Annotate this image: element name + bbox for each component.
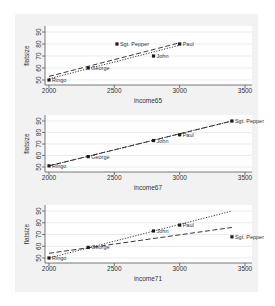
data-point-label: Sgt. Pepper <box>235 234 264 240</box>
x-tick-label: 3500 <box>238 265 253 272</box>
x-axis-label: income67 <box>134 184 163 191</box>
data-point-marker <box>87 66 90 69</box>
y-tick-label: 80 <box>35 219 42 227</box>
data-point-label: Ringo <box>52 163 66 169</box>
data-point-marker <box>87 155 90 158</box>
x-tick-label: 3000 <box>172 174 187 181</box>
data-point-label: Sgt. Pepper <box>235 118 264 124</box>
plot-area <box>45 26 252 85</box>
y-tick-label: 90 <box>35 28 42 36</box>
data-point-marker <box>152 54 155 57</box>
data-point-label: John <box>157 53 169 59</box>
data-point-marker <box>47 78 50 81</box>
data-point-label: John <box>157 138 169 144</box>
data-point-marker <box>152 139 155 142</box>
y-tick-label: 60 <box>35 152 42 160</box>
x-tick-label: 2500 <box>107 265 122 272</box>
x-tick-label: 3000 <box>172 265 187 272</box>
data-point-marker <box>87 246 90 249</box>
data-point-marker <box>115 42 118 45</box>
data-point-marker <box>178 133 181 136</box>
data-point-marker <box>178 224 181 227</box>
y-tick-label: 50 <box>35 76 42 84</box>
data-point-marker <box>47 164 50 167</box>
data-point-label: John <box>157 228 169 234</box>
scatter-figure: 50607080902000250030003500income65flatsi… <box>0 0 275 306</box>
data-point-marker <box>152 229 155 232</box>
y-tick-label: 70 <box>35 52 42 60</box>
data-point-marker <box>230 235 233 238</box>
data-point-label: George <box>91 154 109 160</box>
y-tick-label: 60 <box>35 242 42 250</box>
data-point-label: Paul <box>183 222 194 228</box>
y-tick-label: 70 <box>35 231 42 239</box>
data-point-label: George <box>91 65 109 71</box>
y-tick-label: 80 <box>35 40 42 48</box>
data-point-label: Paul <box>183 132 194 138</box>
chart-canvas: 50607080902000250030003500income65flatsi… <box>0 0 275 306</box>
y-axis-label: flatsize <box>23 45 30 66</box>
y-tick-label: 50 <box>35 163 42 171</box>
data-point-marker <box>178 42 181 45</box>
y-tick-label: 50 <box>35 254 42 262</box>
x-tick-label: 3500 <box>238 87 253 94</box>
data-point-marker <box>47 256 50 259</box>
x-tick-label: 2000 <box>42 265 57 272</box>
data-point-label: Sgt. Pepper <box>120 41 149 47</box>
x-tick-label: 2500 <box>107 87 122 94</box>
x-tick-label: 2000 <box>42 174 57 181</box>
x-tick-label: 2000 <box>42 87 57 94</box>
data-point-label: Paul <box>183 41 194 47</box>
y-tick-label: 80 <box>35 129 42 137</box>
y-tick-label: 90 <box>35 117 42 125</box>
data-point-label: Ringo <box>52 255 66 261</box>
y-tick-label: 60 <box>35 64 42 72</box>
data-point-marker <box>230 119 233 122</box>
x-axis-label: income65 <box>134 97 163 104</box>
y-tick-label: 90 <box>35 207 42 215</box>
y-tick-label: 70 <box>35 140 42 148</box>
y-axis-label: flatsize <box>23 133 30 154</box>
x-axis-label: income71 <box>134 275 163 282</box>
x-tick-label: 2500 <box>107 174 122 181</box>
data-point-label: Ringo <box>52 77 66 83</box>
y-axis-label: flatsize <box>23 224 30 245</box>
x-tick-label: 3000 <box>172 87 187 94</box>
plot-area <box>45 205 252 263</box>
x-tick-label: 3500 <box>238 174 253 181</box>
data-point-label: George <box>91 244 109 250</box>
